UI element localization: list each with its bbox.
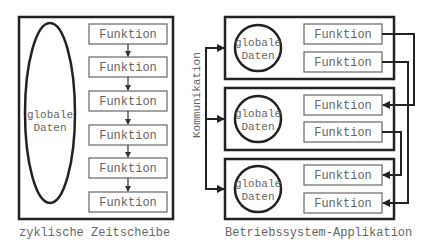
function-label: Funktion — [314, 99, 372, 113]
function-label: Funktion — [99, 95, 157, 109]
global-data-label-2: Daten — [241, 191, 274, 203]
link-arrow — [382, 132, 401, 175]
link-arrow — [382, 34, 414, 105]
global-data-label-1: globale — [235, 37, 281, 49]
communication-label: Kommunikation — [191, 52, 203, 138]
function-label: Funktion — [99, 61, 157, 75]
application-box: globale Daten Funktion Funktion — [225, 17, 394, 79]
global-data-label-2: Daten — [241, 50, 274, 62]
function-label: Funktion — [99, 129, 157, 143]
function-label: Funktion — [314, 126, 372, 140]
function-label: Funktion — [99, 162, 157, 176]
function-label: Funktion — [314, 56, 372, 70]
cyclic-timeslice-panel: globale Daten Funktion Funktion Funktion… — [19, 17, 173, 240]
timeslice-caption: zyklische Zeitscheibe — [19, 226, 170, 240]
global-data-label-2: Daten — [241, 121, 274, 133]
os-application-caption: Betriebssystem-Applikation — [225, 226, 412, 240]
function-label: Funktion — [99, 28, 157, 42]
application-box: globale Daten Funktion Funktion — [225, 88, 394, 150]
function-label: Funktion — [314, 197, 372, 211]
global-data-label-2: Daten — [33, 122, 66, 134]
function-label: Funktion — [314, 169, 372, 183]
diagram: globale Daten Funktion Funktion Funktion… — [0, 0, 429, 247]
application-box: globale Daten Funktion Funktion — [225, 159, 394, 219]
function-links — [382, 34, 414, 203]
global-data-label-1: globale — [27, 109, 73, 121]
global-data-label-1: globale — [235, 108, 281, 120]
function-label: Funktion — [99, 196, 157, 210]
function-label: Funktion — [314, 28, 372, 42]
os-application-panel: globale Daten Funktion Funktion globale … — [191, 17, 414, 240]
communication-bus — [206, 48, 224, 189]
global-data-label-1: globale — [235, 178, 281, 190]
